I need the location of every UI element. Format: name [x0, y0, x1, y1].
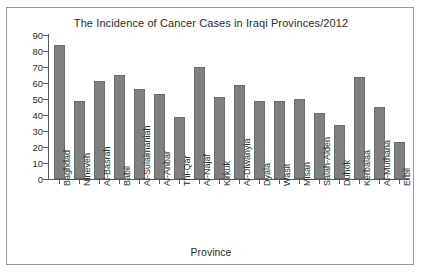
y-tick-label: 10	[7, 159, 43, 169]
x-tick	[59, 180, 60, 184]
y-tick	[43, 179, 48, 180]
x-tick-label: Dyala	[263, 163, 272, 186]
y-tick	[43, 35, 48, 36]
x-tick-label: Babil	[123, 166, 132, 186]
bar	[114, 75, 125, 179]
y-tick-label: 0	[7, 175, 43, 185]
x-tick-label: Wasit	[283, 164, 292, 186]
x-tick	[239, 180, 240, 184]
x-tick-label: Al-Muthana	[383, 140, 392, 186]
y-tick-label: 90	[7, 31, 43, 41]
y-tick	[43, 147, 48, 148]
y-tick-label: 80	[7, 47, 43, 57]
x-tick	[79, 180, 80, 184]
y-tick	[43, 131, 48, 132]
y-tick	[43, 115, 48, 116]
x-tick-label: Salah-Alden	[323, 137, 332, 186]
x-tick-label: Baghdad	[63, 150, 72, 186]
y-tick-label: 40	[7, 111, 43, 121]
chart-frame: The Incidence of Cancer Cases in Iraqi P…	[6, 7, 414, 265]
x-tick-label: Nineveh	[83, 153, 92, 186]
y-tick	[43, 51, 48, 52]
x-tick	[299, 180, 300, 184]
x-tick-label: Al-Anbar	[163, 151, 172, 186]
x-tick	[139, 180, 140, 184]
x-tick	[279, 180, 280, 184]
x-tick	[99, 180, 100, 184]
y-tick-label: 70	[7, 63, 43, 73]
y-tick-label: 50	[7, 95, 43, 105]
x-tick-label: Kerbalaa	[363, 150, 372, 186]
x-tick	[399, 180, 400, 184]
y-tick	[43, 67, 48, 68]
x-tick	[219, 180, 220, 184]
y-tick-label: 60	[7, 79, 43, 89]
x-tick-label: Al-Sulaimaniah	[143, 125, 152, 186]
x-tick-label: Al-Diwanyia	[243, 138, 252, 186]
x-axis-title: Province	[7, 246, 415, 258]
y-axis-line	[48, 34, 49, 180]
x-tick	[179, 180, 180, 184]
x-tick	[119, 180, 120, 184]
x-tick-label: Al-Basrah	[103, 146, 112, 186]
y-tick-label: 30	[7, 127, 43, 137]
x-tick	[359, 180, 360, 184]
x-tick-label: Duhok	[343, 160, 352, 186]
x-tick	[319, 180, 320, 184]
y-tick-label: 20	[7, 143, 43, 153]
x-tick	[199, 180, 200, 184]
x-tick	[339, 180, 340, 184]
x-tick	[259, 180, 260, 184]
x-tick-label: Al-Najaf	[203, 154, 212, 186]
x-tick-label: Erbil	[403, 168, 412, 186]
x-tick-label: Misan	[303, 162, 312, 186]
plot-area: 0102030405060708090 BaghdadNinevehAl-Bas…	[7, 8, 415, 266]
x-tick	[379, 180, 380, 184]
y-tick	[43, 163, 48, 164]
y-tick	[43, 83, 48, 84]
x-tick-label: Thi-Qar	[183, 155, 192, 186]
x-tick	[159, 180, 160, 184]
y-tick	[43, 99, 48, 100]
x-tick-label: Kirkuk	[223, 161, 232, 186]
